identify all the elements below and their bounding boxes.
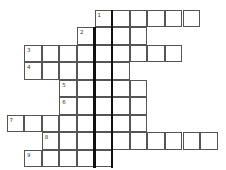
clue-number: 5 (62, 82, 66, 88)
crossword-cell[interactable] (165, 132, 183, 150)
crossword-cell[interactable] (165, 45, 183, 63)
clue-number: 1 (98, 12, 102, 18)
clue-number: 2 (80, 29, 84, 35)
crossword-cell[interactable] (112, 97, 130, 115)
crossword-cell[interactable] (77, 115, 95, 133)
crossword-cell[interactable] (42, 45, 60, 63)
crossword-cell[interactable] (42, 150, 60, 168)
crossword-cell[interactable] (59, 45, 77, 63)
crossword-cell[interactable]: 5 (59, 80, 77, 98)
crossword-cell[interactable] (130, 80, 148, 98)
highlight-column-left-border (93, 27, 95, 168)
clue-number: 3 (27, 47, 31, 53)
crossword-cell[interactable]: 2 (77, 27, 95, 45)
clue-number: 4 (27, 64, 31, 70)
crossword-cell[interactable]: 3 (24, 45, 42, 63)
crossword-cell[interactable] (112, 115, 130, 133)
crossword-cell[interactable]: 8 (42, 132, 60, 150)
crossword-cell[interactable]: 6 (59, 97, 77, 115)
crossword-cell[interactable]: 9 (24, 150, 42, 168)
crossword-cell[interactable] (77, 150, 95, 168)
clue-number: 6 (62, 99, 66, 105)
crossword-cell[interactable] (200, 132, 218, 150)
crossword-cell[interactable] (77, 132, 95, 150)
crossword-cell[interactable] (130, 27, 148, 45)
crossword-cell[interactable] (183, 132, 201, 150)
crossword-cell[interactable] (147, 132, 165, 150)
crossword-cell[interactable] (77, 80, 95, 98)
crossword-cell[interactable] (77, 45, 95, 63)
crossword-cell[interactable] (42, 62, 60, 80)
crossword-cell[interactable] (95, 27, 113, 45)
crossword-cell[interactable] (95, 150, 113, 168)
crossword-cell[interactable]: 1 (95, 10, 113, 28)
crossword-cell[interactable] (59, 115, 77, 133)
crossword-cell[interactable] (95, 62, 113, 80)
crossword-cell[interactable] (130, 115, 148, 133)
crossword-cell[interactable] (95, 115, 113, 133)
crossword-cell[interactable] (112, 27, 130, 45)
crossword-cell[interactable] (130, 10, 148, 28)
crossword-cell[interactable] (95, 132, 113, 150)
crossword-cell[interactable] (130, 97, 148, 115)
crossword-cell[interactable] (112, 45, 130, 63)
crossword-cell[interactable] (130, 132, 148, 150)
crossword-cell[interactable] (59, 150, 77, 168)
crossword-cell[interactable] (59, 62, 77, 80)
highlight-column-right-border (111, 10, 113, 169)
crossword-cell[interactable] (130, 45, 148, 63)
crossword-cell[interactable] (112, 10, 130, 28)
crossword-cell[interactable] (77, 97, 95, 115)
crossword-cell[interactable] (95, 45, 113, 63)
crossword-cell[interactable]: 7 (7, 115, 25, 133)
crossword-cell[interactable] (77, 62, 95, 80)
crossword-cell[interactable] (183, 10, 201, 28)
crossword-cell[interactable] (147, 10, 165, 28)
clue-number: 9 (27, 152, 31, 158)
crossword-cell[interactable] (147, 45, 165, 63)
clue-number: 7 (10, 117, 14, 123)
crossword-cell[interactable] (95, 97, 113, 115)
crossword-cell[interactable] (112, 62, 130, 80)
clue-number: 8 (45, 134, 49, 140)
crossword-cell[interactable] (42, 115, 60, 133)
crossword-cell[interactable] (24, 115, 42, 133)
crossword-cell[interactable] (59, 132, 77, 150)
crossword-cell[interactable]: 4 (24, 62, 42, 80)
crossword-cell[interactable] (112, 80, 130, 98)
crossword-cell[interactable] (112, 132, 130, 150)
crossword-cell[interactable] (165, 10, 183, 28)
crossword-grid: 123456789 (0, 0, 226, 170)
crossword-cell[interactable] (95, 80, 113, 98)
